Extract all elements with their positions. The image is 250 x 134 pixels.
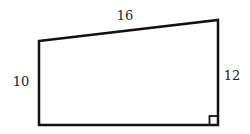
trapezoid-diagram: 16 10 12 (0, 0, 250, 134)
top-side-label: 16 (117, 8, 134, 23)
right-side-label: 12 (224, 68, 241, 83)
trapezoid-shape (39, 20, 218, 125)
left-side-label: 10 (13, 74, 30, 89)
